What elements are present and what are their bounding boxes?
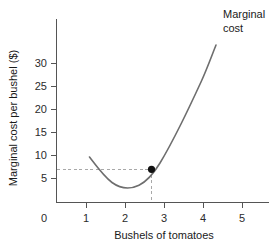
y-tick-label-25: 25 [35, 80, 47, 92]
y-tick-label-20: 20 [35, 103, 47, 115]
chart-axes [57, 19, 270, 203]
y-tick-label-10: 10 [35, 149, 47, 161]
chart-canvas: 30 25 20 15 10 5 0 1 2 3 4 5 Bushels of … [0, 0, 275, 244]
y-tick-label-5: 5 [41, 172, 47, 184]
y-tick-label-15: 15 [35, 126, 47, 138]
x-axis-ticks [87, 203, 243, 209]
y-axis-tick-labels: 30 25 20 15 10 5 [35, 57, 47, 184]
marginal-cost-chart: 30 25 20 15 10 5 0 1 2 3 4 5 Bushels of … [0, 0, 275, 244]
annotation-line-2: cost [223, 22, 243, 34]
y-axis-ticks [51, 64, 57, 179]
x-tick-label-4: 4 [200, 212, 206, 224]
x-tick-label-2: 2 [122, 212, 128, 224]
x-axis-tick-labels: 0 1 2 3 4 5 [41, 212, 245, 224]
x-tick-label-5: 5 [239, 212, 245, 224]
annotation-line-1: Marginal [223, 8, 265, 20]
y-tick-label-30: 30 [35, 57, 47, 69]
x-tick-label-3: 3 [161, 212, 167, 224]
y-axis-title: Marginal cost per bushel ($) [7, 50, 19, 186]
x-tick-label-1: 1 [83, 212, 89, 224]
marginal-cost-annotation: Marginal cost [223, 8, 265, 34]
x-tick-label-0: 0 [41, 212, 47, 224]
equilibrium-point-marker [148, 166, 155, 173]
x-axis-title: Bushels of tomatoes [114, 229, 214, 241]
